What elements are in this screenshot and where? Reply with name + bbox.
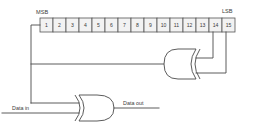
register-cell-label-2: 2 (58, 22, 61, 28)
lfsr-diagram: 123456789101112131415 MSB LSB Data in Da… (0, 0, 256, 133)
register-cell-label-14: 14 (213, 22, 219, 28)
register-cell-label-3: 3 (71, 22, 74, 28)
wire-tap-cell-15 (196, 32, 226, 73)
register-cell-label-1: 1 (45, 22, 48, 28)
register-cell-label-9: 9 (149, 22, 152, 28)
lower-xor-gate (75, 95, 114, 121)
upper-xor-gate (164, 49, 200, 79)
register-cell-label-4: 4 (84, 22, 87, 28)
upper-xor-back-arc (195, 49, 200, 79)
register-cell-label-8: 8 (136, 22, 139, 28)
register-cell-label-5: 5 (97, 22, 100, 28)
lower-xor-body (79, 95, 114, 121)
wire-tap-cell-14 (196, 32, 213, 58)
register-cell-label-11: 11 (174, 22, 179, 28)
lower-xor-back-arc (75, 95, 80, 121)
data-in-label: Data in (12, 105, 29, 111)
register-cell-label-6: 6 (110, 22, 113, 28)
lsb-label: LSB (222, 8, 233, 14)
register-cell-label-13: 13 (200, 22, 206, 28)
register-cell-label-15: 15 (226, 22, 232, 28)
register-cell-label-7: 7 (123, 22, 126, 28)
data-out-label: Data out (123, 100, 144, 106)
shift-register: 123456789101112131415 (40, 18, 235, 32)
msb-label: MSB (36, 9, 48, 15)
register-cell-label-10: 10 (161, 22, 167, 28)
upper-xor-body (164, 49, 196, 79)
circuit-canvas: 123456789101112131415 MSB LSB Data in Da… (0, 0, 256, 133)
register-cell-label-12: 12 (187, 22, 193, 28)
